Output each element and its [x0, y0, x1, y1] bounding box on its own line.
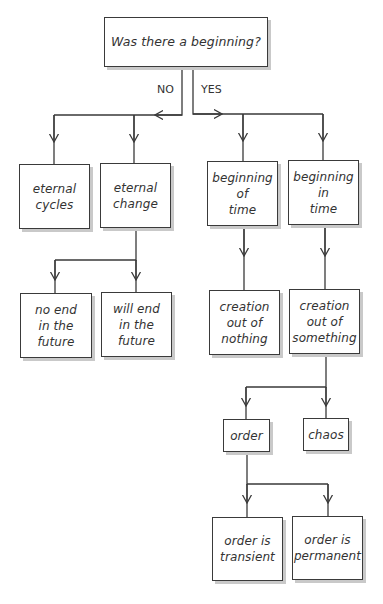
node-label: creation out of something	[292, 298, 356, 346]
node-order: order	[223, 419, 270, 452]
node-eternal-change: eternal change	[100, 163, 171, 228]
node-chaos: chaos	[303, 418, 349, 451]
node-label: eternal change	[113, 180, 158, 212]
node-root-question: Was there a beginning?	[104, 17, 268, 67]
node-no-end-in-future: no end in the future	[20, 293, 92, 358]
node-label: beginning in time	[293, 169, 354, 217]
node-order-is-transient: order is transient	[212, 517, 283, 581]
node-eternal-cycles: eternal cycles	[19, 164, 90, 229]
node-label: order is permanent	[294, 532, 361, 564]
node-label: order is transient	[220, 533, 275, 565]
node-label: no end in the future	[35, 302, 77, 350]
node-label: chaos	[308, 427, 344, 443]
node-beginning-of-time: beginning of time	[207, 161, 278, 226]
node-order-is-permanent: order is permanent	[292, 516, 363, 580]
node-label: eternal cycles	[33, 181, 76, 213]
branch-label-yes: YES	[201, 83, 222, 96]
node-will-end-in-future: will end in the future	[101, 292, 172, 357]
branch-label-no: NO	[157, 83, 174, 96]
node-creation-out-of-nothing: creation out of nothing	[209, 290, 280, 355]
node-beginning-in-time: beginning in time	[288, 160, 359, 225]
node-label: order	[230, 428, 263, 444]
node-label: will end in the future	[113, 301, 160, 349]
node-label: Was there a beginning?	[111, 34, 261, 50]
node-label: creation out of nothing	[219, 299, 269, 347]
node-label: beginning of time	[212, 170, 273, 218]
node-creation-out-of-something: creation out of something	[289, 289, 360, 354]
